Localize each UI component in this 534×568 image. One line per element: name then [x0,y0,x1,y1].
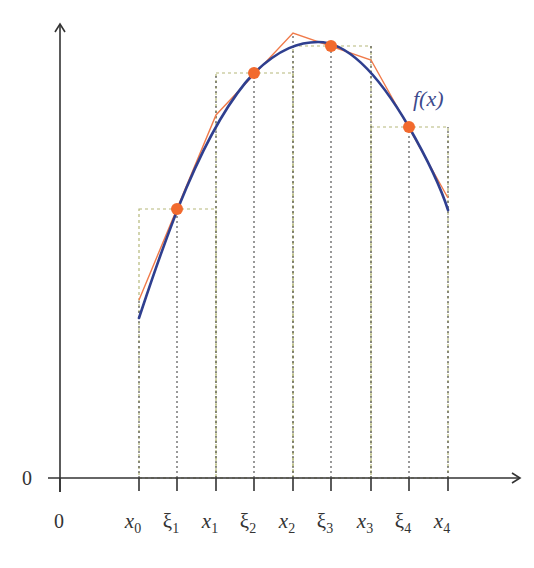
tick-label-x1: x1 [201,509,218,536]
sample-point-3 [325,40,337,52]
x-origin-label: 0 [54,510,64,532]
tick-label-x2: x2 [278,509,295,536]
tick-label-xi3: ξ3 [317,509,333,536]
sample-point-4 [403,121,415,133]
tick-label-x4: x4 [433,509,450,536]
tick-label-xi4: ξ4 [395,509,411,536]
function-label: f(x) [413,86,444,111]
tick-label-x0: x0 [124,509,141,536]
tick-label-xi2: ξ2 [240,509,256,536]
x-axis-ticks [139,478,448,491]
y-origin-label: 0 [22,467,32,489]
tick-label-xi1: ξ1 [163,509,179,536]
x-axis-tick-labels: x0ξ1x1ξ2x2ξ3x3ξ4x4 [124,509,450,536]
rectangle-3 [293,46,371,478]
tick-label-x3: x3 [356,509,373,536]
riemann-sum-diagram: f(x) 0 0 x0ξ1x1ξ2x2ξ3x3ξ4x4 [0,0,534,568]
sample-point-1 [171,203,183,215]
sample-point-2 [248,67,260,79]
